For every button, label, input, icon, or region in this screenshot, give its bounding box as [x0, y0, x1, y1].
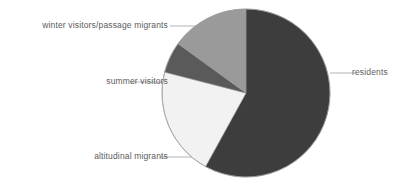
slice-label-winter-visitors-passage-migrants: winter visitors/passage migrants — [42, 20, 168, 30]
pie-chart-figure: winter visitors/passage migrants summer … — [0, 0, 420, 187]
slice-label-altitudinal-migrants: altitudinal migrants — [94, 151, 168, 161]
pie-slices-group — [162, 9, 330, 177]
slice-label-summer-visitors: summer visitors — [106, 76, 168, 86]
slice-label-residents: residents — [352, 67, 388, 77]
